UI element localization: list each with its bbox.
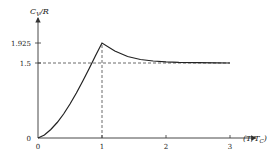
x-tick-label: 3	[228, 143, 232, 151]
x-tick-label: 2	[164, 143, 168, 151]
x-axis-label: (T/TC)	[243, 134, 267, 144]
y-tick-label: 0	[27, 135, 31, 143]
y-tick-label: 1.925	[11, 40, 31, 48]
x-tick-label: 1	[100, 143, 104, 151]
y-label-rest: /R	[39, 7, 49, 16]
chart: 0123 01.51.925 CV/R (T/TC)	[0, 0, 279, 159]
x-ticks: 0123	[36, 135, 232, 151]
heat-capacity-curve	[38, 43, 230, 138]
reference-lines	[38, 43, 230, 138]
y-ticks: 01.51.925	[11, 40, 41, 143]
y-tick-label: 1.5	[20, 60, 31, 68]
x-tick-label: 0	[36, 143, 40, 151]
series-group	[38, 43, 230, 138]
x-label-rest: )	[263, 134, 267, 143]
y-axis-label: CV/R	[30, 7, 49, 17]
